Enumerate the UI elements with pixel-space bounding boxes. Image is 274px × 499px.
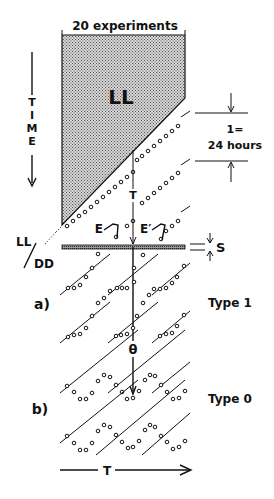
svg-text:I: I <box>30 109 34 122</box>
panel-b-type: Type 0 <box>208 392 252 406</box>
phase-resetting-diagram: 20 experiments LL T I M E TIME 1= 24 hou… <box>0 0 274 499</box>
free-running-period-marker: T <box>129 150 137 244</box>
bottom-axis-label: T <box>103 464 112 478</box>
theta-marker: θ <box>126 341 140 357</box>
panel-b-rows: b) Type 0 <box>32 330 252 455</box>
panel-b-label: b) <box>32 401 48 417</box>
transition-label-bottom: DD <box>34 257 54 271</box>
title: 20 experiments <box>72 19 178 33</box>
period-bracket: 1= 24 hours <box>195 93 263 182</box>
panel-a-rows: a) Type 1 <box>34 252 252 343</box>
stimulus-label: S <box>216 240 225 255</box>
bottom-t-axis: T <box>60 464 191 478</box>
transition-label: LL DD <box>16 235 54 271</box>
panel-a-label: a) <box>34 296 50 312</box>
period-t-label: T <box>129 189 137 202</box>
period-label-line2: 24 hours <box>208 139 263 152</box>
panel-a-type: Type 1 <box>208 296 252 310</box>
ll-block-label: LL <box>108 85 134 109</box>
theta-label: θ <box>129 342 138 357</box>
transition-label-top: LL <box>16 235 32 249</box>
event-label-e: E <box>95 222 103 236</box>
svg-text:T: T <box>28 96 36 109</box>
ll-block: LL <box>62 30 185 225</box>
period-label-line1: 1= <box>227 123 244 136</box>
svg-text:M: M <box>27 122 38 135</box>
time-axis: T I M E <box>27 52 38 186</box>
event-label-e-prime: E′ <box>140 222 151 236</box>
svg-text:E: E <box>28 135 36 148</box>
